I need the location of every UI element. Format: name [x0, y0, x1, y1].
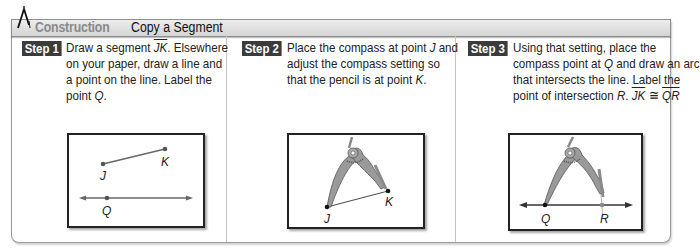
diagram-step-3: Q R — [508, 133, 643, 231]
step-badge: Step 2 — [242, 41, 282, 56]
compass-drawing-icon — [544, 137, 604, 205]
svg-text:R: R — [600, 212, 609, 226]
header-category: Construction — [35, 19, 110, 35]
compass-drawing-icon — [327, 137, 386, 207]
step-instruction: Place the compass at point J and adjust … — [287, 40, 458, 88]
compass-icon — [17, 5, 31, 29]
diagram-step-2: J K — [287, 133, 425, 229]
svg-text:J: J — [99, 169, 107, 183]
step-badge: Step 3 — [468, 41, 508, 56]
step-badge: Step 1 — [22, 41, 62, 56]
diagram-step-1: J K Q — [67, 133, 205, 228]
svg-text:Q: Q — [102, 204, 111, 218]
panel-header — [11, 19, 671, 37]
svg-text:Q: Q — [541, 212, 550, 226]
step-instruction: Using that setting, place the compass po… — [513, 40, 700, 104]
step-instruction: Draw a segment JK. Elsewhere on your pap… — [66, 40, 228, 104]
svg-text:J: J — [323, 212, 331, 226]
page-title: Copy a Segment — [131, 19, 223, 35]
svg-text:K: K — [161, 155, 170, 169]
svg-text:K: K — [385, 195, 394, 209]
